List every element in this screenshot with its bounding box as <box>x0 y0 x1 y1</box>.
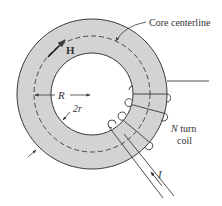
field-label: H <box>66 44 75 56</box>
toroid-diagram: I H R 2r Core centerline N turn coil <box>0 0 222 206</box>
turns-text: turn <box>178 123 197 134</box>
centerline-label: Core centerline <box>149 17 211 28</box>
coil-label-line2: coil <box>177 135 192 146</box>
thickness-label: 2r <box>73 103 82 114</box>
thickness-arrow-outer <box>28 150 36 157</box>
radius-label: R <box>57 89 65 101</box>
coil-label-line1: N turn <box>170 123 196 134</box>
thickness-arrow-inner <box>63 112 70 120</box>
current-label: I <box>157 168 163 180</box>
